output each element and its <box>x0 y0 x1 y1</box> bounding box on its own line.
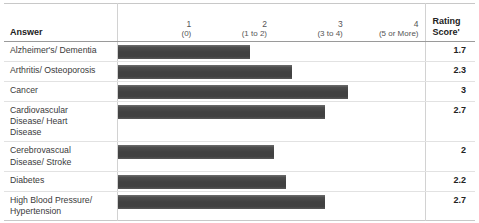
table-row: Diabetes2.2 <box>4 171 475 191</box>
table-row: Cancer3 <box>4 82 475 102</box>
row-bar-cell <box>117 42 425 62</box>
row-bar-cell <box>117 191 425 220</box>
header-row: Answer 1 (0) 2 (1 to 2) 3 (3 to 4) <box>4 4 475 42</box>
axis-tick-4-num: 4 <box>345 19 419 29</box>
row-label: Alzheimer's/ Dementia <box>4 42 117 62</box>
rating-score-line1: Rating <box>433 16 476 27</box>
bar-track <box>118 102 425 121</box>
row-bar-cell <box>117 142 425 171</box>
row-rating-score: 3 <box>425 82 475 102</box>
bar-track <box>118 192 425 211</box>
row-bar-cell <box>117 171 425 191</box>
bar-track <box>118 62 425 81</box>
axis-tick-3-num: 3 <box>269 19 343 29</box>
row-rating-score: 2 <box>425 142 475 171</box>
bar <box>118 65 293 79</box>
row-label: Cerebrovascual Disease/ Stroke <box>4 142 117 171</box>
row-label: Cardiovascular Disease/ Heart Disease <box>4 102 117 142</box>
rating-score-line2: Score' <box>433 27 476 38</box>
table-header: Answer 1 (0) 2 (1 to 2) 3 (3 to 4) <box>4 4 475 42</box>
bar <box>118 175 287 189</box>
row-label: Arthritis/ Osteoporosis <box>4 62 117 82</box>
row-rating-score: 2.7 <box>425 191 475 220</box>
table-row: Cerebrovascual Disease/ Stroke2 <box>4 142 475 171</box>
table-row: Cardiovascular Disease/ Heart Disease2.7 <box>4 102 475 142</box>
row-rating-score: 1.7 <box>425 42 475 62</box>
bar-track <box>118 42 425 61</box>
column-header-answer: Answer <box>4 4 117 42</box>
row-bar-cell <box>117 62 425 82</box>
column-header-rating-score: Rating Score' <box>425 4 475 42</box>
bar <box>118 195 325 209</box>
row-bar-cell <box>117 102 425 142</box>
row-label: Cancer <box>4 82 117 102</box>
bar <box>118 45 250 59</box>
survey-results-table: Answer 1 (0) 2 (1 to 2) 3 (3 to 4) <box>4 3 475 221</box>
axis-tick-2: 2 (1 to 2) <box>193 19 269 38</box>
axis-tick-4: 4 (5 or More) <box>345 19 421 38</box>
row-label: High Blood Pressure/ Hypertension <box>4 191 117 220</box>
axis-tick-3: 3 (3 to 4) <box>269 19 345 38</box>
row-rating-score: 2.7 <box>425 102 475 142</box>
table-row: Arthritis/ Osteoporosis2.3 <box>4 62 475 82</box>
table-row: Alzheimer's/ Dementia1.7 <box>4 42 475 62</box>
axis-tick-1-num: 1 <box>118 19 192 29</box>
bar <box>118 85 348 99</box>
axis-tick-4-range: (5 or More) <box>345 29 419 38</box>
axis-tick-3-range: (3 to 4) <box>269 29 343 38</box>
axis-tick-1: 1 (0) <box>118 19 194 38</box>
bar <box>118 105 325 119</box>
bar-track <box>118 172 425 191</box>
row-label: Diabetes <box>4 171 117 191</box>
bar-track <box>118 82 425 101</box>
table-body: Alzheimer's/ Dementia1.7Arthritis/ Osteo… <box>4 42 475 221</box>
row-bar-cell <box>117 82 425 102</box>
bar-track <box>118 142 425 161</box>
axis-tick-1-range: (0) <box>118 29 192 38</box>
table-row: High Blood Pressure/ Hypertension2.7 <box>4 191 475 220</box>
scale-axis-header: 1 (0) 2 (1 to 2) 3 (3 to 4) 4 (5 or More… <box>117 4 425 42</box>
axis-tick-2-range: (1 to 2) <box>193 29 267 38</box>
row-rating-score: 2.2 <box>425 171 475 191</box>
bar <box>118 145 275 159</box>
axis-tick-2-num: 2 <box>193 19 267 29</box>
row-rating-score: 2.3 <box>425 62 475 82</box>
